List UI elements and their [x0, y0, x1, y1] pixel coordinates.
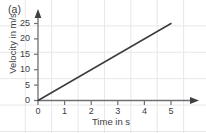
x-axis-arrow-icon [190, 97, 199, 104]
x-tick-label-2: 2 [84, 106, 98, 116]
x-axis-ticks [38, 101, 171, 106]
x-tick-label-3: 3 [111, 106, 125, 116]
y-tick-label-0: 0 [14, 95, 30, 105]
x-axis [38, 97, 199, 104]
x-axis-title-text: Time in s [92, 116, 130, 127]
x-axis-title: Time in s [0, 116, 206, 127]
y-axis-title: Velocity in m/s [7, 6, 18, 82]
x-tick-label-1: 1 [58, 106, 72, 116]
x-tick-label-4: 4 [137, 106, 151, 116]
data-line-velocity [38, 24, 171, 101]
x-tick-label-5: 5 [164, 106, 178, 116]
y-axis-arrow-icon [35, 9, 42, 18]
velocity-time-chart-figure: (a) 0 5 10 15 20 25 0 1 2 3 4 5 Time in … [0, 0, 206, 133]
x-tick-label-0: 0 [31, 106, 45, 116]
